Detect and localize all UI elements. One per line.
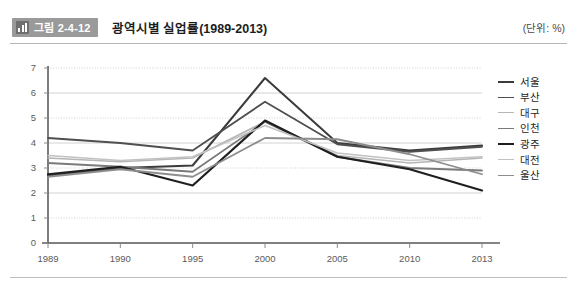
figure-header: 그림 2-4-12 광역시별 실업률(1989-2013) (단위: %): [0, 0, 577, 44]
legend-label: 광주: [520, 139, 540, 150]
legend-label: 부산: [520, 92, 540, 103]
page-title: 광역시별 실업률(1989-2013): [112, 18, 268, 37]
unit-note: (단위: %): [523, 20, 565, 35]
legend-swatch-line-icon: [498, 159, 514, 160]
x-tick-label: 1995: [182, 253, 203, 264]
x-tick-label: 1990: [110, 253, 131, 264]
bar-chart-icon: [16, 21, 29, 34]
legend-label: 대전: [520, 155, 540, 166]
figure-number-label: 그림 2-4-12: [34, 19, 91, 35]
legend-item[interactable]: 대구: [498, 105, 570, 121]
legend-item[interactable]: 대전: [498, 152, 570, 168]
bottom-divider: [10, 277, 567, 278]
y-tick-label: 5: [31, 112, 36, 123]
y-tick-label: 7: [31, 62, 36, 73]
legend-swatch-line-icon: [498, 128, 514, 129]
header-divider: [10, 43, 567, 44]
legend-label: 서울: [520, 77, 540, 88]
y-axis-tick-labels: 01234567: [31, 62, 48, 248]
x-tick-label: 1989: [37, 253, 58, 264]
y-tick-label: 0: [31, 237, 36, 248]
legend-swatch-line-icon: [498, 81, 514, 83]
series-line-인천: [48, 122, 482, 172]
y-tick-label: 1: [31, 212, 36, 223]
figure-number-badge: 그림 2-4-12: [12, 18, 98, 37]
x-tick-label: 2000: [254, 253, 275, 264]
figure-header-row: 그림 2-4-12 광역시별 실업률(1989-2013) (단위: %): [12, 16, 565, 38]
data-series-lines: [48, 78, 482, 191]
chart-legend: 서울부산대구인천광주대전울산: [498, 74, 570, 183]
legend-item[interactable]: 울산: [498, 168, 570, 184]
legend-swatch-line-icon: [498, 143, 514, 145]
y-tick-label: 4: [31, 137, 36, 148]
y-tick-label: 3: [31, 162, 36, 173]
y-tick-label: 2: [31, 187, 36, 198]
chart-plot-area: 01234567 1989199019952000200520102013: [0, 48, 577, 278]
x-axis-tick-labels: 1989199019952000200520102013: [37, 243, 492, 264]
legend-swatch-line-icon: [498, 112, 514, 113]
x-tick-label: 2010: [399, 253, 420, 264]
line-chart-svg: 01234567 1989199019952000200520102013: [0, 48, 577, 278]
legend-label: 인천: [520, 123, 540, 134]
legend-item[interactable]: 부산: [498, 90, 570, 106]
x-tick-label: 2013: [471, 253, 492, 264]
legend-label: 대구: [520, 108, 540, 119]
y-tick-label: 6: [31, 87, 36, 98]
legend-item[interactable]: 인천: [498, 121, 570, 137]
series-line-부산: [48, 102, 482, 152]
legend-label: 울산: [520, 170, 540, 181]
x-tick-label: 2005: [327, 253, 348, 264]
legend-item[interactable]: 서울: [498, 74, 570, 90]
legend-swatch-line-icon: [498, 175, 514, 176]
legend-swatch-line-icon: [498, 97, 514, 98]
legend-item[interactable]: 광주: [498, 136, 570, 152]
